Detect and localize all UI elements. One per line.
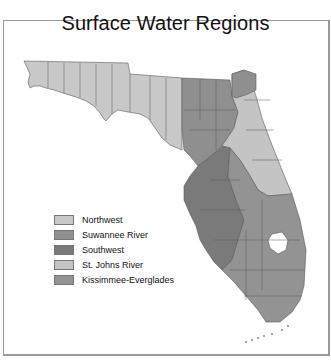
legend-label: Northwest xyxy=(82,215,123,225)
legend-item-northwest: Northwest xyxy=(54,212,174,227)
legend-swatch xyxy=(54,260,74,270)
legend-item-stjohns: St. Johns River xyxy=(54,257,174,272)
legend-label: Suwannee River xyxy=(82,230,148,240)
legend-swatch xyxy=(54,230,74,240)
legend-swatch xyxy=(54,275,74,285)
florida-keys xyxy=(245,325,289,343)
legend-label: Kissimmee-Everglades xyxy=(82,275,174,285)
legend-swatch xyxy=(54,245,74,255)
florida-map xyxy=(0,0,331,362)
legend-label: St. Johns River xyxy=(82,260,143,270)
legend-item-suwannee: Suwannee River xyxy=(54,227,174,242)
legend-item-kissimmee: Kissimmee-Everglades xyxy=(54,272,174,287)
legend-item-southwest: Southwest xyxy=(54,242,174,257)
legend-swatch xyxy=(54,215,74,225)
legend-label: Southwest xyxy=(82,245,124,255)
legend: Northwest Suwannee River Southwest St. J… xyxy=(54,212,174,287)
region-northwest xyxy=(24,61,182,150)
